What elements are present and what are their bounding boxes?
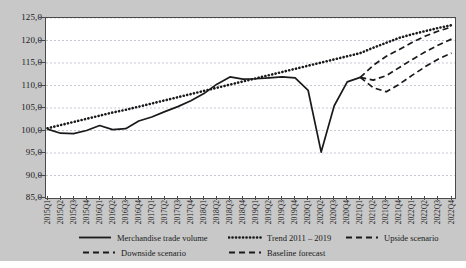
- x-tick-label: 2021Q1: [355, 200, 364, 224]
- x-tick-label: 2016Q2: [108, 200, 117, 224]
- legend-label: Upside scenario: [384, 233, 439, 243]
- x-tick-mark: [281, 196, 282, 200]
- x-tick-label: 2021Q2: [368, 200, 377, 224]
- series-line: [360, 27, 451, 77]
- legend-label: Trend 2011 – 2019: [267, 233, 331, 243]
- x-axis: 2015Q12015Q22015Q32015Q42016Q12016Q22016…: [45, 200, 456, 234]
- x-tick-label: 2015Q4: [82, 200, 91, 224]
- x-tick-mark: [164, 196, 165, 200]
- x-tick-mark: [86, 196, 87, 200]
- x-tick-label: 2022Q2: [420, 200, 429, 224]
- x-tick-label: 2020Q2: [316, 200, 325, 224]
- x-tick-mark: [60, 196, 61, 200]
- x-tick-mark: [177, 196, 178, 200]
- legend-item[interactable]: Merchandise trade volume: [78, 231, 208, 244]
- x-tick-label: 2017Q1: [147, 200, 156, 224]
- chart-lines: [46, 18, 455, 198]
- x-tick-label: 2015Q3: [69, 200, 78, 224]
- x-tick-mark: [47, 196, 48, 200]
- x-tick-mark: [398, 196, 399, 200]
- x-tick-mark: [242, 196, 243, 200]
- x-tick-label: 2020Q4: [342, 200, 351, 224]
- x-tick-mark: [385, 196, 386, 200]
- x-tick-mark: [112, 196, 113, 200]
- legend-swatch-icon: [345, 233, 379, 242]
- x-tick-label: 2018Q2: [212, 200, 221, 224]
- x-tick-mark: [255, 196, 256, 200]
- x-tick-label: 2019Q1: [251, 200, 260, 224]
- x-tick-label: 2017Q2: [160, 200, 169, 224]
- y-axis: 125,0120,0115,0110,0105,0100,095,090,085…: [0, 0, 42, 205]
- x-tick-label: 2015Q2: [56, 200, 65, 224]
- plot-area: [45, 17, 456, 199]
- x-tick-mark: [320, 196, 321, 200]
- x-tick-label: 2018Q4: [238, 200, 247, 224]
- x-tick-mark: [268, 196, 269, 200]
- x-tick-label: 2021Q4: [394, 200, 403, 224]
- x-tick-mark: [451, 196, 452, 200]
- x-tick-label: 2020Q1: [303, 200, 312, 224]
- legend-label: Downside scenario: [121, 248, 186, 258]
- x-tick-mark: [411, 196, 412, 200]
- x-tick-mark: [333, 196, 334, 200]
- series-line: [48, 77, 361, 152]
- x-tick-label: 2022Q1: [407, 200, 416, 224]
- legend-swatch-icon: [228, 233, 262, 242]
- x-tick-mark: [307, 196, 308, 200]
- x-tick-label: 2018Q3: [225, 200, 234, 224]
- x-tick-label: 2016Q3: [121, 200, 130, 224]
- figure-bottom-strip: [0, 261, 466, 268]
- x-tick-label: 2018Q1: [199, 200, 208, 224]
- x-tick-mark: [294, 196, 295, 200]
- legend-item[interactable]: Upside scenario: [345, 231, 439, 244]
- x-tick-mark: [99, 196, 100, 200]
- legend-swatch-icon: [82, 248, 116, 257]
- x-tick-mark: [125, 196, 126, 200]
- x-tick-label: 2022Q4: [447, 200, 456, 224]
- x-tick-label: 2016Q1: [95, 200, 104, 224]
- legend-item[interactable]: Baseline forecast: [228, 246, 325, 259]
- x-tick-mark: [190, 196, 191, 200]
- x-tick-mark: [372, 196, 373, 200]
- legend-swatch-icon: [228, 248, 262, 257]
- x-tick-label: 2020Q3: [329, 200, 338, 224]
- x-tick-label: 2019Q3: [277, 200, 286, 224]
- x-tick-mark: [346, 196, 347, 200]
- x-tick-mark: [437, 196, 438, 200]
- x-tick-label: 2019Q2: [264, 200, 273, 224]
- series-line: [48, 25, 452, 128]
- x-tick-mark: [151, 196, 152, 200]
- x-tick-label: 2015Q1: [43, 200, 52, 224]
- x-tick-mark: [138, 196, 139, 200]
- x-tick-mark: [424, 196, 425, 200]
- legend-item[interactable]: Trend 2011 – 2019: [228, 231, 331, 244]
- x-tick-mark: [229, 196, 230, 200]
- x-tick-label: 2016Q4: [134, 200, 143, 224]
- series-line: [360, 53, 451, 92]
- x-tick-label: 2022Q3: [433, 200, 442, 224]
- x-tick-mark: [203, 196, 204, 200]
- chart-figure: 125,0120,0115,0110,0105,0100,095,090,085…: [0, 0, 466, 268]
- legend-label: Baseline forecast: [267, 248, 325, 258]
- x-tick-label: 2017Q3: [173, 200, 182, 224]
- x-tick-label: 2019Q4: [290, 200, 299, 224]
- x-tick-mark: [73, 196, 74, 200]
- legend-item[interactable]: Downside scenario: [82, 246, 186, 259]
- x-tick-label: 2017Q4: [186, 200, 195, 224]
- chart-legend: Merchandise trade volumeTrend 2011 – 201…: [0, 231, 466, 261]
- x-tick-mark: [359, 196, 360, 200]
- x-tick-mark: [216, 196, 217, 200]
- legend-label: Merchandise trade volume: [117, 233, 208, 243]
- x-tick-label: 2021Q3: [381, 200, 390, 224]
- legend-swatch-icon: [78, 233, 112, 242]
